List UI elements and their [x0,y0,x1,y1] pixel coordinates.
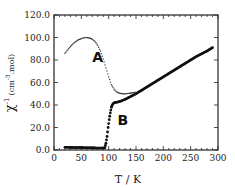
x-tick-label: 0 [51,153,57,163]
y-tick-label: 40.0 [30,100,50,110]
svg-text:χ-1(cm-3.mol): χ-1(cm-3.mol) [2,54,17,112]
y-tick-label: 100.0 [24,33,50,43]
x-tick-label: 150 [127,153,144,163]
x-axis-title: T / K [115,173,142,186]
chart: 0.020.040.060.080.0100.0120.0 0501001502… [0,0,235,188]
axis-ticks [54,15,218,150]
plot-frame [54,15,218,150]
y-axis-units-end: .mol) [7,54,16,75]
x-tick-label: 250 [182,153,199,163]
x-tick-label: 300 [209,153,226,163]
x-tick-labels: 050100150200250300 [51,153,227,163]
x-tick-label: 100 [100,153,117,163]
series-layer [64,37,214,150]
annotation-A: A [92,49,103,65]
plot-border [54,15,218,150]
y-tick-label: 80.0 [30,55,50,65]
x-tick-label: 50 [76,153,88,163]
annotation-B: B [118,112,129,128]
y-axis-symbol: χ [2,104,17,112]
y-tick-label: 60.0 [30,78,50,88]
series-B [64,46,214,149]
y-axis-units: (cm [7,80,16,96]
series-A [64,37,136,95]
y-tick-label: 20.0 [30,123,50,133]
y-tick-label: 120.0 [24,10,50,20]
x-tick-label: 200 [155,153,172,163]
y-axis-title: χ-1(cm-3.mol) [2,54,17,112]
y-tick-label: 0.0 [36,145,51,155]
y-tick-labels: 0.020.040.060.080.0100.0120.0 [24,10,50,155]
y-axis-sup: -1 [3,97,11,104]
